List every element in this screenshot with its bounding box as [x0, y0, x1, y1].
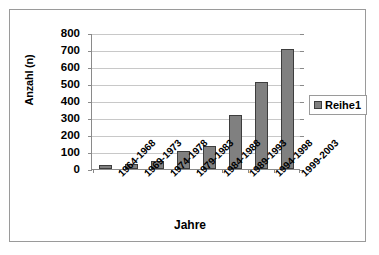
legend-swatch-icon	[314, 101, 322, 109]
y-axis-tick-right	[300, 68, 304, 69]
x-axis-tick-label: 1994-1998	[273, 171, 281, 179]
x-axis-tick-label: 1969-1973	[142, 171, 150, 179]
bar[interactable]	[99, 165, 112, 169]
y-axis-tick-label: 400	[34, 95, 80, 107]
x-axis-tick-label: 1989-1993	[247, 171, 255, 179]
y-axis-tick	[88, 119, 92, 120]
y-axis-tick-right	[300, 85, 304, 86]
chart-frame: Anzahl (n) 0100200300400500600700800 196…	[9, 9, 366, 242]
y-axis-tick-label: 0	[34, 163, 80, 175]
y-axis-tick-label: 700	[34, 44, 80, 56]
y-axis-tick-label: 800	[34, 27, 80, 39]
y-axis-tick	[88, 136, 92, 137]
y-axis-tick	[88, 68, 92, 69]
bar-slot	[93, 34, 119, 169]
y-axis-tick-right	[300, 51, 304, 52]
y-axis-tick-right	[300, 34, 304, 35]
y-axis-tick-label: 300	[34, 112, 80, 124]
y-axis-tick-right	[300, 119, 304, 120]
y-axis-tick	[88, 51, 92, 52]
x-axis-title: Jahre	[70, 218, 310, 232]
y-axis-tick	[88, 34, 92, 35]
y-axis-tick-right	[300, 102, 304, 103]
chart-legend: Reihe1	[309, 95, 367, 115]
y-axis-tick-label: 100	[34, 146, 80, 158]
x-axis-tick-label: 1974-1978	[168, 171, 176, 179]
x-axis-tick-label: 1999-2003	[299, 171, 307, 179]
y-axis-tick-right	[300, 136, 304, 137]
legend-label: Reihe1	[325, 99, 361, 111]
x-axis-tick-label: 1979-1983	[194, 171, 202, 179]
x-axis-tick-labels: 1964-19681969-19731974-19781979-19831984…	[91, 171, 300, 223]
y-axis-tick	[88, 102, 92, 103]
y-axis-tick-label: 200	[34, 129, 80, 141]
y-axis-tick	[88, 153, 92, 154]
x-axis-tick-label: 1964-1968	[116, 171, 124, 179]
y-axis-tick-label: 600	[34, 61, 80, 73]
y-axis-tick-label: 500	[34, 78, 80, 90]
x-axis-tick-label: 1984-1988	[221, 171, 229, 179]
y-axis-tick	[88, 85, 92, 86]
